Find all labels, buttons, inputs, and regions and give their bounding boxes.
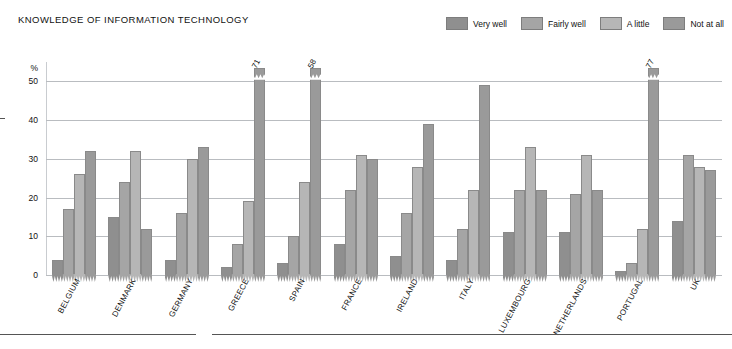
bar[interactable]: [232, 244, 243, 275]
x-label-cell: FRANCE: [328, 275, 384, 333]
bar[interactable]: [187, 159, 198, 275]
bar[interactable]: [672, 221, 683, 275]
x-label-cell: DENMARK: [102, 275, 158, 333]
bar-slot: [514, 62, 525, 275]
axis-break-marker: [309, 73, 322, 80]
bar-group: [384, 62, 440, 275]
bar-group: [46, 62, 102, 275]
bar[interactable]: [63, 209, 74, 275]
x-tick-label: IRELAND: [395, 277, 420, 314]
bar-slot: [559, 62, 570, 275]
bar[interactable]: [367, 159, 378, 275]
bar-group: [553, 62, 609, 275]
bar[interactable]: [479, 85, 490, 275]
bar-slot: [63, 62, 74, 275]
bar[interactable]: [694, 167, 705, 275]
x-label-cell: GREECE: [215, 275, 271, 333]
x-tick-label: UK: [688, 277, 701, 292]
bar-slot: [356, 62, 367, 275]
footer-rule-left: [0, 334, 196, 335]
x-label-cell: UK: [666, 275, 722, 333]
bar[interactable]: [525, 147, 536, 275]
bar[interactable]: [85, 151, 96, 275]
footer-rule-right: [212, 334, 732, 335]
bar-slot: [581, 62, 592, 275]
bar-slot: [615, 62, 626, 275]
bar[interactable]: [637, 229, 648, 275]
bar-slot: [503, 62, 514, 275]
bar-slot: [52, 62, 63, 275]
bar[interactable]: [390, 256, 401, 275]
bar[interactable]: [141, 229, 152, 275]
bar[interactable]: [401, 213, 412, 275]
bar[interactable]: [356, 155, 367, 275]
bar-slot: [74, 62, 85, 275]
bar-slot: [694, 62, 705, 275]
bar[interactable]: [536, 190, 547, 275]
bar-slot: [119, 62, 130, 275]
bar[interactable]: [683, 155, 694, 275]
bar[interactable]: [165, 260, 176, 275]
bar-slot: [221, 62, 232, 275]
legend-label: Not at all: [690, 19, 724, 29]
bar[interactable]: [468, 190, 479, 275]
bar-slot: [367, 62, 378, 275]
chart-legend: Very wellFairly wellA littleNot at all: [446, 17, 724, 30]
x-tick-label: PORTUGAL: [616, 277, 646, 322]
legend-item-0: Very well: [446, 17, 507, 30]
bars: [384, 62, 440, 275]
bar-slot: 58: [310, 62, 321, 275]
bar[interactable]: [446, 260, 457, 275]
bar[interactable]: [705, 170, 716, 275]
bar-slot: [672, 62, 683, 275]
bar-slot: [570, 62, 581, 275]
bar[interactable]: [176, 213, 187, 275]
bar[interactable]: [559, 232, 570, 275]
bar[interactable]: [570, 194, 581, 275]
bar[interactable]: [288, 236, 299, 275]
bar-slot: [423, 62, 434, 275]
bar-slot: [479, 62, 490, 275]
bar[interactable]: [277, 263, 288, 275]
x-tick-label: GERMANY: [167, 277, 195, 319]
bar[interactable]: [412, 167, 423, 275]
x-label-cell: SPAIN: [271, 275, 327, 333]
bar[interactable]: [299, 182, 310, 275]
bar[interactable]: [581, 155, 592, 275]
bar[interactable]: [423, 124, 434, 275]
bar[interactable]: 77: [648, 68, 659, 275]
bar[interactable]: [334, 244, 345, 275]
bar-slot: 71: [254, 62, 265, 275]
bar-slot: [141, 62, 152, 275]
x-tick-label: FRANCE: [340, 277, 364, 312]
bar[interactable]: [626, 263, 637, 275]
bar-slot: [299, 62, 310, 275]
bar[interactable]: [108, 217, 119, 275]
bars: [497, 62, 553, 275]
bar[interactable]: [345, 190, 356, 275]
bar[interactable]: [52, 260, 63, 275]
bar[interactable]: [514, 190, 525, 275]
bar-slot: [176, 62, 187, 275]
x-tick-label: NETHERLANDS: [552, 277, 589, 337]
bars: [440, 62, 496, 275]
bar[interactable]: [130, 151, 141, 275]
bar[interactable]: [592, 190, 603, 275]
bar-slot: [637, 62, 648, 275]
bar[interactable]: 58: [310, 68, 321, 275]
bar-group: [159, 62, 215, 275]
bar[interactable]: [198, 147, 209, 275]
bar[interactable]: [503, 232, 514, 275]
bar-slot: [683, 62, 694, 275]
bar-slot: [165, 62, 176, 275]
bar[interactable]: [457, 229, 468, 275]
x-label-cell: BELGIUM: [46, 275, 102, 333]
bar-slot: [243, 62, 254, 275]
bar[interactable]: [74, 174, 85, 275]
bar[interactable]: [243, 201, 254, 275]
bar[interactable]: [119, 182, 130, 275]
legend-item-2: A little: [600, 17, 650, 30]
bar[interactable]: 71: [254, 68, 265, 275]
axis-break-marker: [647, 73, 660, 80]
bar[interactable]: [221, 267, 232, 275]
